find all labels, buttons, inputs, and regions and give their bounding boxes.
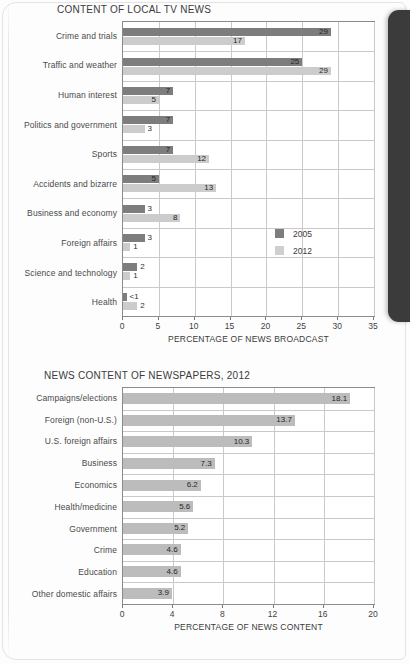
category-label: Other domestic affairs: [0, 583, 117, 605]
axis-tick: [172, 605, 173, 608]
legend-local-tv-news: 2005 2012: [275, 225, 312, 259]
bar-row: 3: [123, 234, 374, 242]
axis-tick: [230, 317, 231, 320]
bar-value-label: 29: [319, 28, 331, 36]
bar-row: 5: [123, 175, 374, 183]
bar-value-label: 5.6: [179, 503, 193, 511]
bar-value-label: 2: [137, 302, 144, 310]
bar-value-label: 8: [173, 214, 180, 222]
bar-value-label: 3.9: [158, 589, 172, 597]
bar-group: 712: [123, 140, 374, 169]
axis-tick: [122, 605, 123, 608]
bar-group: 31: [123, 228, 374, 257]
x-axis-newspapers-2012: 048121620: [122, 605, 375, 621]
category-label: Crime: [0, 540, 117, 562]
bar-value-label: 6.2: [187, 481, 201, 489]
bar: [123, 28, 331, 36]
bars-local-tv-news: 291725297573712513383121<12: [123, 22, 374, 316]
axis-tick-label: 15: [225, 321, 234, 331]
category-label: Foreign (non-U.S.): [0, 409, 117, 431]
bar-row: 7: [123, 146, 374, 154]
bar-row: 2: [123, 263, 374, 271]
bar-value-label: 17: [233, 37, 245, 45]
bar-group: 13.7: [123, 410, 374, 432]
chart-title-newspapers-2012: NEWS CONTENT OF NEWSPAPERS, 2012: [0, 370, 409, 381]
bar-row: 6.2: [123, 480, 374, 491]
gridline-vertical: [374, 22, 375, 316]
bar: [123, 263, 137, 271]
bar-group: 7.3: [123, 453, 374, 475]
axis-tick: [222, 605, 223, 608]
bar: [123, 415, 295, 426]
bar-value-label: 12: [197, 155, 209, 163]
category-label: Business and economy: [0, 199, 117, 229]
bar-value-label: <1: [127, 293, 139, 301]
axis-tick: [158, 317, 159, 320]
category-axis-newspapers-2012: Campaigns/electionsForeign (non-U.S.)U.S…: [0, 387, 122, 605]
category-label: Health/medicine: [0, 496, 117, 518]
bar-row: 7: [123, 116, 374, 124]
bar: [123, 234, 145, 242]
bar-row: 8: [123, 214, 374, 222]
category-label: Business: [0, 452, 117, 474]
bar-value-label: 13: [204, 184, 216, 192]
bar-row: 3.9: [123, 588, 374, 599]
category-label: Politics and government: [0, 110, 117, 140]
bar-value-label: 7.3: [201, 460, 215, 468]
axis-tick-label: 35: [368, 321, 377, 331]
axis-tick: [373, 605, 374, 608]
bar-row: <1: [123, 293, 374, 301]
category-label: Economics: [0, 474, 117, 496]
chart-title-local-tv-news: CONTENT OF LOCAL TV NEWS: [0, 4, 409, 15]
axis-tick: [337, 317, 338, 320]
bars-newspapers-2012: 18.113.710.37.36.25.65.24.64.63.9: [123, 388, 374, 604]
bar: [123, 272, 130, 280]
category-axis-local-tv-news: Crime and trialsTraffic and weatherHuman…: [0, 21, 122, 317]
legend-label-2005: 2005: [293, 229, 312, 239]
bar-group: 3.9: [123, 582, 374, 604]
category-label: Sports: [0, 139, 117, 169]
x-axis-local-tv-news: 05101520253035: [122, 317, 375, 333]
axis-tick-label: 5: [155, 321, 160, 331]
bar-value-label: 7: [166, 87, 173, 95]
bar: [123, 184, 216, 192]
bar-row: 29: [123, 28, 374, 36]
x-axis-title-newspapers-2012: PERCENTAGE OF NEWS CONTENT: [122, 622, 375, 632]
bar-group: 21: [123, 257, 374, 286]
bar-value-label: 5: [151, 96, 158, 104]
category-label: Science and technology: [0, 258, 117, 288]
bar-row: 5.6: [123, 501, 374, 512]
x-axis-row-local-tv-news: 05101520253035: [0, 317, 409, 333]
bar-row: 4.6: [123, 566, 374, 577]
bar-group: 4.6: [123, 539, 374, 561]
bar-row: 10.3: [123, 436, 374, 447]
bar-group: 513: [123, 169, 374, 198]
category-label: Traffic and weather: [0, 51, 117, 81]
bar-value-label: 4.6: [167, 546, 181, 554]
legend-item-2005: 2005: [275, 225, 312, 242]
legend-label-2012: 2012: [293, 246, 312, 256]
bar-value-label: 25: [290, 58, 302, 66]
bar-row: 1: [123, 243, 374, 251]
category-label: Health: [0, 287, 117, 317]
axis-tick-label: 20: [368, 609, 377, 619]
bar-value-label: 29: [319, 67, 331, 75]
bar-value-label: 5: [151, 175, 158, 183]
bar-row: 4.6: [123, 544, 374, 555]
bar-group: 5.6: [123, 496, 374, 518]
category-label: Accidents and bizarre: [0, 169, 117, 199]
bar-group: 6.2: [123, 474, 374, 496]
axis-tick: [194, 317, 195, 320]
bar-row: 3: [123, 205, 374, 213]
bar-value-label: 18.1: [332, 395, 351, 403]
axis-tick-label: 20: [261, 321, 270, 331]
bar-row: 5.2: [123, 523, 374, 534]
bar-row: 12: [123, 155, 374, 163]
axis-tick: [301, 317, 302, 320]
bar: [123, 155, 209, 163]
axis-tick: [122, 317, 123, 320]
chart-body-newspapers-2012: Campaigns/electionsForeign (non-U.S.)U.S…: [0, 387, 409, 605]
bar: [123, 214, 180, 222]
bar: [123, 125, 145, 133]
category-label: U.S. foreign affairs: [0, 431, 117, 453]
